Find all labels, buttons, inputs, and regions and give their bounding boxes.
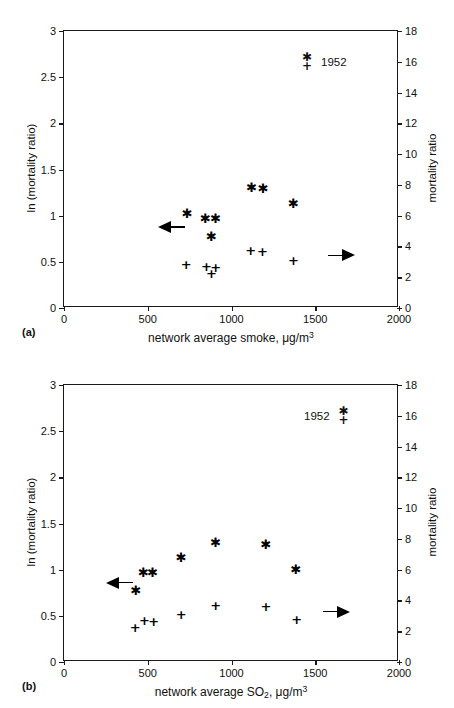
arrow-stem xyxy=(119,582,133,584)
y-axis-tick-right xyxy=(397,447,402,448)
axis-pointer-arrow-right xyxy=(323,607,350,617)
y-axis-tick-right xyxy=(397,570,402,571)
x-axis-title-pre: network average SO xyxy=(155,685,264,699)
x-axis-tick-label: 500 xyxy=(139,314,157,325)
y-axis-tick-label-right: 8 xyxy=(405,179,411,190)
y-axis-tick-label-right: 0 xyxy=(405,657,411,668)
y-axis-tick-left xyxy=(59,216,64,217)
data-point-asterisk: ✱ xyxy=(176,550,187,563)
data-point-asterisk: ✱ xyxy=(288,196,299,209)
y-axis-tick-label-right: 0 xyxy=(405,303,411,314)
y-axis-tick-right xyxy=(397,277,402,278)
y-axis-tick-label-left: 3 xyxy=(50,380,56,391)
x-axis-tick-label: 1500 xyxy=(303,314,327,325)
y-axis-title-left: ln (mortality ratio) xyxy=(25,478,37,567)
y-axis-tick-right xyxy=(397,31,402,32)
data-point-asterisk: ✱ xyxy=(291,562,302,575)
y-axis-title-right: mortality ratio xyxy=(426,133,438,202)
legend-plus-icon: + xyxy=(302,62,312,71)
y-axis-tick-label-right: 8 xyxy=(405,533,411,544)
x-axis-tick xyxy=(399,306,400,311)
y-axis-tick-right xyxy=(397,539,402,540)
data-point-plus: + xyxy=(210,261,221,274)
y-axis-tick-right xyxy=(397,600,402,601)
data-point-asterisk: ✱ xyxy=(200,211,211,224)
y-axis-tick-right xyxy=(397,631,402,632)
legend-plus-icon: + xyxy=(339,416,349,425)
y-axis-tick-label-right: 12 xyxy=(405,472,417,483)
x-axis-tick xyxy=(64,660,65,665)
legend-marker-group: ✱+ xyxy=(302,53,312,71)
plot-area-b: 00.511.522.53024681012141618050010001500… xyxy=(63,384,398,661)
data-point-asterisk: ✱ xyxy=(260,537,271,550)
data-point-plus: + xyxy=(201,260,212,273)
x-axis-tick xyxy=(148,306,149,311)
y-axis-tick-right xyxy=(397,154,402,155)
y-axis-tick-label-left: 2.5 xyxy=(41,72,56,83)
arrow-head xyxy=(337,606,350,618)
x-axis-tick xyxy=(399,660,400,665)
chart-legend: ✱+1952 xyxy=(302,53,347,71)
y-axis-tick-label-right: 16 xyxy=(405,410,417,421)
y-axis-tick-label-right: 10 xyxy=(405,503,417,514)
x-axis-tick-label: 1000 xyxy=(219,314,243,325)
figure-panel-a: ln (mortality ratio) mortality ratio net… xyxy=(0,0,454,354)
axis-pointer-arrow-right xyxy=(328,250,355,260)
data-point-plus: + xyxy=(260,599,271,612)
x-axis-tick xyxy=(64,306,65,311)
y-axis-tick-right xyxy=(397,185,402,186)
data-point-plus: + xyxy=(130,621,141,634)
x-axis-tick-label: 2000 xyxy=(387,668,411,679)
x-axis-title-exponent: 3 xyxy=(309,330,314,340)
arrow-stem xyxy=(171,226,185,228)
y-axis-tick-label-right: 2 xyxy=(405,626,411,637)
chart-legend: 1952✱+ xyxy=(304,407,349,425)
x-axis-tick-label: 500 xyxy=(139,668,157,679)
y-axis-tick-left xyxy=(59,570,64,571)
figure-panel-b: ln (mortality ratio) mortality ratio net… xyxy=(0,354,454,708)
y-axis-tick-label-left: 0 xyxy=(50,303,56,314)
y-axis-tick-label-left: 2 xyxy=(50,472,56,483)
x-axis-tick xyxy=(148,660,149,665)
y-axis-tick-label-left: 1.5 xyxy=(41,518,56,529)
x-axis-title-exponent: 3 xyxy=(302,684,307,694)
y-axis-tick-label-left: 0 xyxy=(50,657,56,668)
axis-pointer-arrow-left xyxy=(106,578,133,588)
arrow-head xyxy=(106,577,119,589)
y-axis-tick-right xyxy=(397,246,402,247)
y-axis-tick-label-right: 2 xyxy=(405,272,411,283)
data-point-asterisk: ✱ xyxy=(206,229,217,242)
y-axis-tick-label-right: 14 xyxy=(405,441,417,452)
y-axis-tick-right xyxy=(397,477,402,478)
x-axis-title-mid: , μg/m xyxy=(269,685,303,699)
y-axis-title-right: mortality ratio xyxy=(426,487,438,556)
panel-label-b: (b) xyxy=(22,680,36,692)
data-point-asterisk: ✱ xyxy=(147,566,158,579)
y-axis-tick-right xyxy=(397,216,402,217)
y-axis-tick-label-left: 3 xyxy=(50,26,56,37)
data-point-plus: + xyxy=(245,244,256,257)
y-axis-tick-label-right: 12 xyxy=(405,118,417,129)
x-axis-tick xyxy=(232,660,233,665)
y-axis-tick-label-right: 6 xyxy=(405,564,411,575)
y-axis-tick-right xyxy=(397,123,402,124)
x-axis-tick-label: 0 xyxy=(61,668,67,679)
y-axis-tick-left xyxy=(59,170,64,171)
data-point-asterisk: ✱ xyxy=(210,212,221,225)
panel-label-a: (a) xyxy=(22,326,35,338)
legend-label-year: 1952 xyxy=(304,410,330,422)
x-axis-title: network average SO2, μg/m3 xyxy=(155,684,308,700)
y-axis-tick-label-left: 0.5 xyxy=(41,610,56,621)
y-axis-title-left: ln (mortality ratio) xyxy=(25,124,37,213)
data-point-asterisk: ✱ xyxy=(182,206,193,219)
y-axis-tick-label-right: 18 xyxy=(405,26,417,37)
data-point-plus: + xyxy=(181,258,192,271)
data-point-plus: + xyxy=(257,245,268,258)
data-point-plus: + xyxy=(288,253,299,266)
data-point-asterisk: ✱ xyxy=(210,535,221,548)
data-point-plus: + xyxy=(176,607,187,620)
y-axis-tick-label-left: 2.5 xyxy=(41,426,56,437)
arrow-stem xyxy=(323,611,337,613)
data-point-plus: + xyxy=(291,612,302,625)
x-axis-tick-label: 1000 xyxy=(219,668,243,679)
